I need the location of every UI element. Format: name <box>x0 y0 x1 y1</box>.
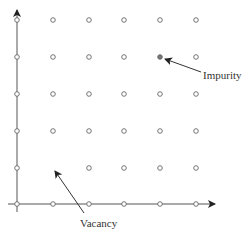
lattice-atom <box>122 202 127 207</box>
lattice-atom <box>122 92 127 97</box>
lattice-atom <box>122 18 127 23</box>
lattice-atom <box>87 92 92 97</box>
crystal-lattice-diagram: Impurity Vacancy <box>0 0 250 235</box>
lattice-atom <box>87 18 92 23</box>
lattice-atom <box>15 202 20 207</box>
lattice-atom <box>194 166 199 171</box>
lattice-atom <box>51 55 56 60</box>
lattice-atom <box>51 202 56 207</box>
lattice-atom <box>122 55 127 60</box>
lattice-atom <box>158 92 163 97</box>
vacancy-arrow <box>55 171 84 213</box>
lattice-atom <box>158 166 163 171</box>
vacancy-label: Vacancy <box>80 217 118 229</box>
lattice-atom <box>87 202 92 207</box>
lattice-atoms <box>15 18 199 207</box>
impurity-arrow <box>165 59 201 72</box>
lattice-atom <box>158 202 163 207</box>
lattice-atom <box>194 92 199 97</box>
impurity-atom <box>158 55 163 60</box>
lattice-atom <box>15 129 20 134</box>
lattice-atom <box>51 18 56 23</box>
lattice-atom <box>15 18 20 23</box>
axes <box>8 10 215 212</box>
annotations <box>55 59 201 213</box>
lattice-atom <box>158 18 163 23</box>
lattice-atom <box>87 129 92 134</box>
lattice-atom <box>194 55 199 60</box>
lattice-atom <box>51 92 56 97</box>
lattice-atom <box>194 18 199 23</box>
lattice-atom <box>194 129 199 134</box>
lattice-atom <box>15 92 20 97</box>
lattice-atom <box>194 202 199 207</box>
lattice-atom <box>122 129 127 134</box>
lattice-atom <box>158 129 163 134</box>
lattice-atom <box>122 166 127 171</box>
lattice-atom <box>51 129 56 134</box>
lattice-atom <box>87 55 92 60</box>
lattice-atom <box>87 166 92 171</box>
impurity-label: Impurity <box>203 69 242 81</box>
lattice-atom <box>15 55 20 60</box>
lattice-atom <box>15 166 20 171</box>
